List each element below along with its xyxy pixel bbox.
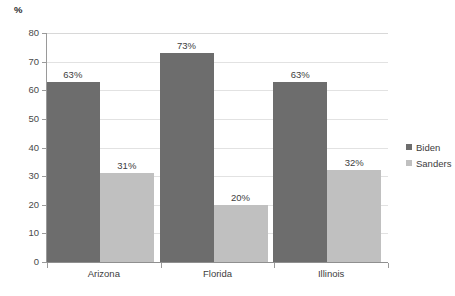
x-axis-labels: ArizonaFloridaIllinois [47, 268, 388, 290]
legend-item-sanders[interactable]: Sanders [406, 155, 451, 171]
y-axis-title: % [14, 4, 23, 15]
x-tick-mark [161, 263, 162, 268]
bar-value-label: 63% [291, 69, 310, 80]
y-tick-label: 20 [9, 199, 39, 210]
y-tick-label: 10 [9, 227, 39, 238]
y-axis-labels: 01020304050607080 [0, 33, 39, 263]
bar-sanders-illinois [327, 170, 381, 262]
y-tick-label: 70 [9, 56, 39, 67]
legend-item-biden[interactable]: Biden [406, 139, 451, 155]
x-tick-mark [274, 263, 275, 268]
x-axis-line [47, 262, 388, 263]
y-tick-mark [42, 148, 47, 149]
bar-biden-arizona [46, 82, 100, 262]
legend-label: Sanders [416, 158, 451, 169]
x-tick-label-florida: Florida [203, 268, 232, 279]
y-tick-label: 0 [9, 256, 39, 267]
legend: BidenSanders [406, 139, 451, 171]
bar-biden-illinois [273, 82, 327, 262]
y-tick-mark [42, 62, 47, 63]
bar-value-label: 20% [231, 192, 250, 203]
legend-label: Biden [416, 142, 440, 153]
y-tick-mark [42, 33, 47, 34]
x-tick-label-illinois: Illinois [318, 268, 344, 279]
y-tick-label: 50 [9, 113, 39, 124]
x-tick-mark [47, 263, 48, 268]
legend-swatch-icon [406, 160, 412, 166]
y-tick-label: 30 [9, 170, 39, 181]
bar-value-label: 31% [117, 160, 136, 171]
gridline [47, 33, 388, 34]
x-tick-mark [388, 263, 389, 268]
y-tick-mark [42, 205, 47, 206]
bar-value-label: 63% [63, 69, 82, 80]
bar-biden-florida [160, 53, 214, 262]
y-tick-label: 60 [9, 84, 39, 95]
x-tick-label-arizona: Arizona [88, 268, 120, 279]
bar-sanders-arizona [100, 173, 154, 262]
bar-sanders-florida [214, 205, 268, 262]
bar-value-label: 73% [177, 40, 196, 51]
y-tick-label: 40 [9, 142, 39, 153]
y-tick-mark [42, 90, 47, 91]
bar-chart: % 63%31%73%20%63%32% 01020304050607080 A… [0, 0, 455, 296]
y-tick-label: 80 [9, 27, 39, 38]
legend-swatch-icon [406, 144, 412, 150]
gridline [47, 62, 388, 63]
bar-value-label: 32% [345, 157, 364, 168]
y-tick-mark [42, 119, 47, 120]
y-tick-mark [42, 176, 47, 177]
y-tick-mark [42, 233, 47, 234]
plot-area: 63%31%73%20%63%32% [47, 33, 388, 262]
